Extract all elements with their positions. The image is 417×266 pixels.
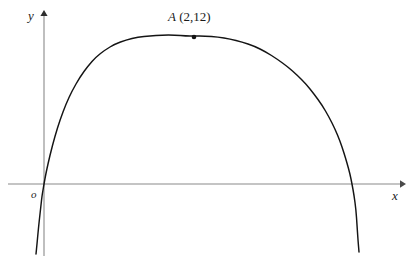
x-axis-arrowhead (400, 180, 406, 188)
parabola-figure: y x o A (2,12) (0, 0, 417, 266)
axes-group (8, 10, 406, 256)
plot-canvas (0, 0, 417, 266)
point-a-label: A (2,12) (168, 10, 211, 23)
y-axis-arrowhead (40, 10, 47, 16)
point-a-coords-value: (2,12) (179, 9, 210, 24)
x-axis-label: x (392, 189, 398, 202)
curve-group (36, 35, 359, 254)
point-a-name: A (168, 9, 176, 24)
marker-group (192, 35, 197, 40)
point-a-marker (192, 35, 197, 40)
y-axis-label: y (28, 9, 34, 22)
origin-label: o (31, 189, 37, 200)
parabola-curve (36, 35, 359, 254)
